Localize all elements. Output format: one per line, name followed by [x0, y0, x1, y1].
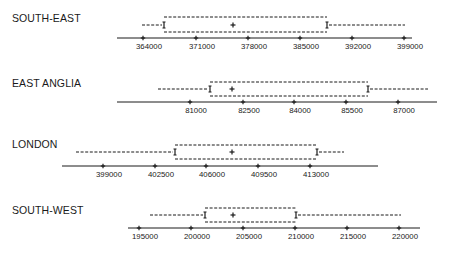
panel-london: 399000402500406000409500413000 [62, 145, 378, 179]
tick-mark [204, 164, 208, 168]
tick-mark [402, 36, 406, 40]
tick-mark [153, 164, 157, 168]
tick-mark [298, 36, 302, 40]
tick-mark [308, 164, 312, 168]
tick-label: 402500 [148, 170, 175, 179]
center-estimate-icon [231, 213, 236, 218]
tick-mark [350, 36, 354, 40]
tick-mark [397, 226, 401, 230]
interval-end-right-icon [316, 149, 319, 155]
tick-label: 371000 [189, 42, 216, 51]
tick-label: 205000 [236, 232, 263, 241]
tick-label: 87000 [393, 106, 415, 115]
tick-label: 399000 [397, 42, 424, 51]
tick-mark [292, 100, 296, 104]
interval-end-left-icon [209, 86, 212, 92]
tick-mark [293, 226, 297, 230]
interval-end-right-icon [367, 86, 370, 92]
tick-mark [396, 100, 400, 104]
tick-label: 378000 [241, 42, 268, 51]
panel-east-anglia: 8100082500840008550087000 [117, 82, 437, 115]
center-estimate-icon [230, 87, 235, 92]
tick-label: 84000 [289, 106, 311, 115]
tick-mark [256, 164, 260, 168]
interval-end-left-icon [204, 212, 207, 218]
tick-mark [194, 36, 198, 40]
tick-label: 82500 [238, 106, 260, 115]
tick-label: 210000 [288, 232, 315, 241]
tick-label: 364000 [136, 42, 163, 51]
tick-label: 392000 [345, 42, 372, 51]
tick-mark [344, 100, 348, 104]
interval-end-left-icon [174, 149, 177, 155]
center-estimate-icon [231, 23, 236, 28]
tick-label: 85500 [341, 106, 363, 115]
diagram-canvas: 3640003710003780003850003920003990008100… [0, 0, 450, 253]
tick-label: 399000 [96, 170, 123, 179]
tick-label: 220000 [392, 232, 419, 241]
tick-mark [189, 226, 193, 230]
tick-mark [137, 226, 141, 230]
tick-label: 81000 [185, 106, 207, 115]
tick-label: 409500 [251, 170, 278, 179]
tick-label: 406000 [199, 170, 226, 179]
center-estimate-icon [230, 150, 235, 155]
panel-south-west: 195000200000205000210000215000220000 [128, 208, 420, 241]
tick-mark [101, 164, 105, 168]
tick-mark [188, 100, 192, 104]
tick-label: 413000 [303, 170, 330, 179]
tick-mark [241, 100, 245, 104]
interval-end-right-icon [326, 22, 329, 28]
tick-label: 200000 [184, 232, 211, 241]
tick-mark [141, 36, 145, 40]
tick-label: 385000 [293, 42, 320, 51]
panel-south-east: 364000371000378000385000392000399000 [117, 17, 424, 51]
tick-mark [345, 226, 349, 230]
interval-end-left-icon [163, 22, 166, 28]
tick-label: 195000 [132, 232, 159, 241]
tick-label: 215000 [340, 232, 367, 241]
tick-mark [241, 226, 245, 230]
interval-end-right-icon [295, 212, 298, 218]
tick-mark [246, 36, 250, 40]
